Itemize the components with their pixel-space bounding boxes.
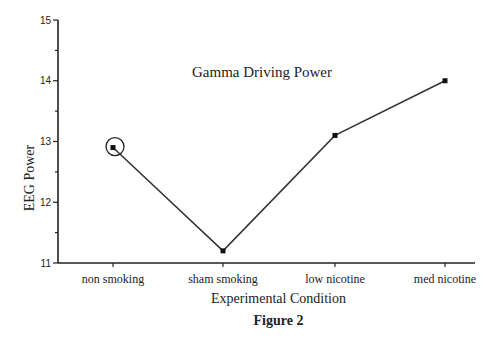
plot-area [106, 78, 448, 253]
line-chart: 1112131415non smokingsham smokinglow nic… [0, 0, 497, 340]
data-point-marker [333, 133, 338, 138]
data-point-marker [221, 248, 226, 253]
x-tick-label: low nicotine [305, 272, 365, 286]
data-point-marker [443, 78, 448, 83]
data-point-marker [111, 145, 116, 150]
x-tick-label: med nicotine [414, 272, 476, 286]
figure-caption: Figure 2 [30, 313, 497, 329]
axes: 1112131415non smokingsham smokinglow nic… [40, 15, 476, 287]
series-line [113, 81, 445, 251]
chart-title: Gamma Driving Power [192, 64, 332, 80]
y-tick-label: 14 [40, 75, 52, 86]
x-tick-label: sham smoking [188, 272, 258, 286]
y-tick-label: 13 [40, 136, 52, 147]
y-axis-label: EEG Power [22, 144, 37, 211]
x-tick-label: non smoking [82, 272, 144, 286]
x-axis-label: Experimental Condition [30, 291, 497, 307]
y-tick-label: 15 [40, 15, 52, 26]
y-tick-label: 11 [41, 258, 52, 269]
y-tick-label: 12 [40, 197, 52, 208]
